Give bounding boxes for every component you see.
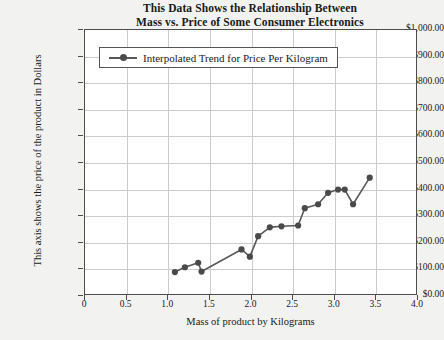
- y-tick-mark: [78, 268, 83, 269]
- x-tick-label: 4.0: [397, 299, 437, 309]
- data-point-marker: [172, 269, 178, 275]
- data-point-marker: [315, 201, 321, 207]
- x-tick-mark: [334, 295, 335, 300]
- x-tick-label: 2.0: [231, 299, 271, 309]
- y-tick-mark: [78, 109, 83, 110]
- y-tick-mark: [78, 29, 83, 30]
- x-tick-label: 0: [64, 299, 104, 309]
- y-tick-mark: [78, 56, 83, 57]
- data-point-marker: [198, 268, 204, 274]
- y-tick-mark: [78, 215, 83, 216]
- data-point-marker: [325, 190, 331, 196]
- x-axis-title: Mass of product by Kilograms: [84, 316, 417, 327]
- data-point-marker: [342, 187, 348, 193]
- y-tick-mark: [78, 162, 83, 163]
- legend-line-marker-icon: [109, 52, 137, 64]
- x-tick-label: 1.5: [189, 299, 229, 309]
- x-tick-mark: [209, 295, 210, 300]
- x-tick-mark: [251, 295, 252, 300]
- x-tick-label: 3.5: [355, 299, 395, 309]
- x-tick-label: 0.5: [106, 299, 146, 309]
- data-point-marker: [238, 246, 244, 252]
- chart-legend: Interpolated Trend for Price Per Kilogra…: [99, 47, 338, 68]
- data-point-marker: [247, 254, 253, 260]
- data-point-marker: [182, 264, 188, 270]
- data-point-marker: [302, 205, 308, 211]
- x-tick-label: 3.0: [314, 299, 354, 309]
- data-point-marker: [278, 223, 284, 229]
- x-tick-mark: [167, 295, 168, 300]
- y-tick-mark: [78, 82, 83, 83]
- data-point-marker: [195, 260, 201, 266]
- data-point-marker: [267, 224, 273, 230]
- x-tick-mark: [417, 295, 418, 300]
- series-polyline: [175, 178, 370, 272]
- x-tick-label: 1.0: [147, 299, 187, 309]
- data-point-marker: [350, 201, 356, 207]
- data-point-marker: [335, 187, 341, 193]
- plot-area: [84, 29, 417, 295]
- data-point-marker: [255, 233, 261, 239]
- x-tick-mark: [375, 295, 376, 300]
- y-tick-mark: [78, 135, 83, 136]
- chart-title-line-1: This Data Shows the Relationship Between: [70, 2, 430, 16]
- y-tick-mark: [78, 242, 83, 243]
- y-tick-mark: [78, 295, 83, 296]
- y-axis-title: This axis shows the price of the product…: [32, 26, 43, 296]
- legend-label-series-1: Interpolated Trend for Price Per Kilogra…: [143, 52, 328, 64]
- data-point-marker: [295, 222, 301, 228]
- data-series-line: [85, 30, 418, 296]
- data-point-marker: [367, 175, 373, 181]
- x-tick-mark: [292, 295, 293, 300]
- x-tick-mark: [84, 295, 85, 300]
- x-tick-mark: [126, 295, 127, 300]
- chart-container: This Data Shows the Relationship Between…: [0, 0, 444, 340]
- x-tick-label: 2.5: [272, 299, 312, 309]
- y-tick-mark: [78, 189, 83, 190]
